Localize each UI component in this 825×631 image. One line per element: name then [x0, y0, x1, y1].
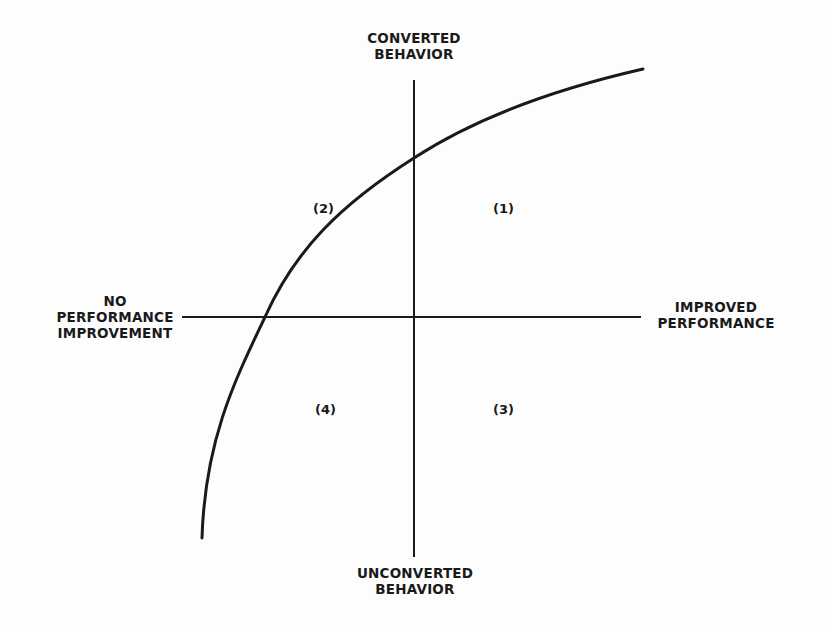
right-label-line-1: IMPROVED — [646, 299, 786, 315]
quadrant-1-label: (1) — [493, 201, 514, 216]
top-label-line-1: CONVERTED — [349, 30, 479, 46]
bottom-axis-label: UNCONVERTED BEHAVIOR — [335, 565, 495, 597]
quadrant-4-label: (4) — [315, 402, 336, 417]
quadrant-3-label: (3) — [493, 402, 514, 417]
left-axis-label: NO PERFORMANCE IMPROVEMENT — [50, 293, 180, 341]
left-label-line-3: IMPROVEMENT — [50, 325, 180, 341]
bottom-label-line-2: BEHAVIOR — [335, 581, 495, 597]
right-label-line-2: PERFORMANCE — [646, 315, 786, 331]
bottom-label-line-1: UNCONVERTED — [335, 565, 495, 581]
top-label-line-2: BEHAVIOR — [349, 46, 479, 62]
left-label-line-2: PERFORMANCE — [50, 309, 180, 325]
top-axis-label: CONVERTED BEHAVIOR — [349, 30, 479, 62]
boundary-curve — [202, 69, 643, 538]
quadrant-2-label: (2) — [313, 201, 334, 216]
left-label-line-1: NO — [50, 293, 180, 309]
right-axis-label: IMPROVED PERFORMANCE — [646, 299, 786, 331]
